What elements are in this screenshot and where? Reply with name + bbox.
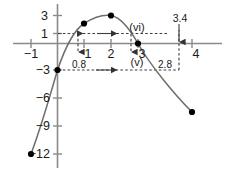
y-tick-label--12: −12 [29, 147, 50, 161]
x-tick-label--1: −1 [24, 47, 38, 61]
readoff-label-3-4: 3.4 [173, 12, 188, 24]
x-tick-label-2: 2 [108, 47, 115, 61]
readoff-label-0-8: 0.8 [72, 59, 86, 70]
data-point [54, 67, 60, 73]
y-tick-label--6: −6 [36, 91, 50, 105]
chart-figure: −1 1 2 3 4 3 1 −3 −6 −9 −12 (vi) (v) 0.8… [0, 0, 228, 172]
parabola-plot: −1 1 2 3 4 3 1 −3 −6 −9 −12 (vi) (v) 0.8… [0, 0, 228, 172]
annotation-label-v: (v) [131, 56, 144, 68]
data-point [108, 12, 114, 18]
readoff-label-2-8: 2.8 [158, 59, 172, 70]
data-point [81, 20, 87, 26]
y-tick-label--9: −9 [36, 119, 50, 133]
y-tick-label-1: 1 [41, 27, 48, 41]
y-tick-label-3: 3 [41, 9, 48, 23]
y-tick-label--3: −3 [36, 63, 50, 77]
data-point [135, 40, 141, 46]
x-tick-label-4: 4 [193, 47, 200, 61]
parabola-curve [31, 15, 192, 154]
annotation-label-vi: (vi) [129, 21, 144, 33]
data-point [189, 109, 195, 115]
